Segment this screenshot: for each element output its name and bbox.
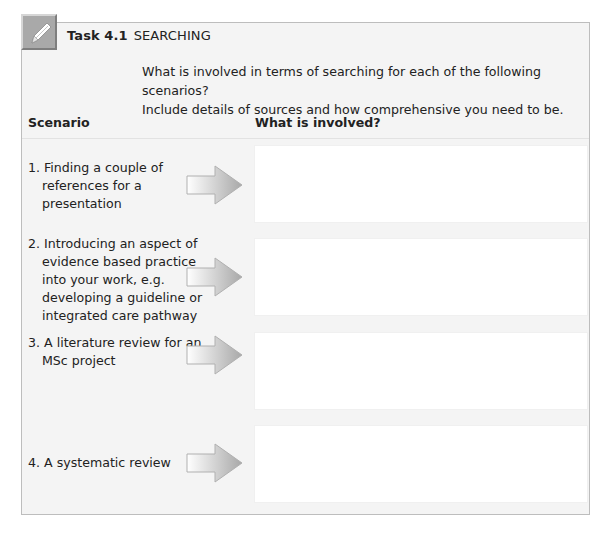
scenario-text: 3. A literature review for an MSc projec…	[28, 334, 212, 370]
scenario-row-1: 1. Finding a couple of references for a …	[22, 145, 589, 225]
task-instructions: What is involved in terms of searching f…	[142, 62, 592, 119]
instructions-line-1: What is involved in terms of searching f…	[142, 62, 592, 100]
header-divider	[22, 138, 589, 139]
task-number: Task 4.1	[67, 28, 128, 43]
answer-box-2[interactable]	[254, 238, 588, 316]
scenario-text: 2. Introducing an aspect of evidence bas…	[28, 235, 212, 325]
task-name: SEARCHING	[134, 28, 211, 43]
arrow-right-icon	[186, 443, 244, 483]
column-header-scenario: Scenario	[28, 115, 90, 130]
task-title: Task 4.1SEARCHING	[67, 28, 211, 43]
column-header-what-is-involved: What is involved?	[255, 115, 381, 130]
arrow-right-icon	[186, 335, 244, 375]
answer-box-4[interactable]	[254, 425, 588, 503]
scenario-row-2: 2. Introducing an aspect of evidence bas…	[22, 238, 589, 318]
task-icon-box	[21, 14, 57, 50]
scenario-row-4: 4. A systematic review	[22, 425, 589, 505]
answer-box-3[interactable]	[254, 332, 588, 410]
scenario-row-3: 3. A literature review for an MSc projec…	[22, 332, 589, 412]
arrow-right-icon	[186, 165, 244, 205]
pencil-icon	[26, 19, 54, 47]
answer-box-1[interactable]	[254, 145, 588, 223]
arrow-right-icon	[186, 257, 244, 297]
scenario-text: 4. A systematic review	[28, 454, 212, 472]
scenario-text: 1. Finding a couple of references for a …	[28, 159, 212, 213]
